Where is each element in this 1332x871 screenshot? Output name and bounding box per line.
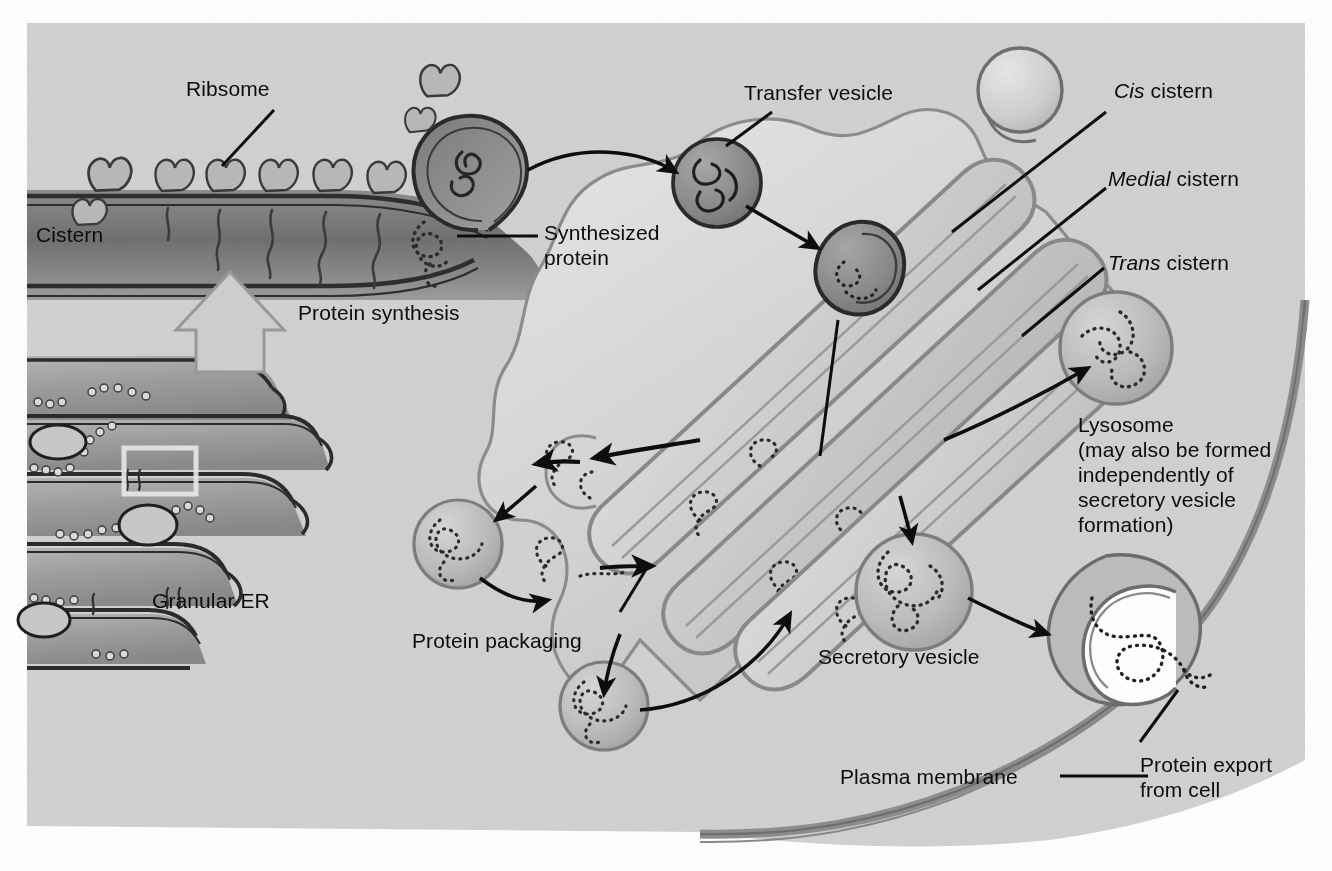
label-trans-cistern: Trans cistern xyxy=(1108,250,1229,275)
label-protein-packaging: Protein packaging xyxy=(412,628,582,653)
label-plasma-membrane: Plasma membrane xyxy=(840,764,1018,789)
label-granular-er: Granular ER xyxy=(152,588,270,613)
secretory-vesicle xyxy=(856,534,972,650)
label-cis-rest: cistern xyxy=(1145,79,1214,102)
label-medial-cistern: Medial cistern xyxy=(1108,166,1239,191)
label-synthesized-protein: Synthesized protein xyxy=(544,220,660,270)
label-cistern: Cistern xyxy=(36,222,103,247)
label-cis-cistern: Cis cistern xyxy=(1114,78,1213,103)
label-cis-emphasis: Cis xyxy=(1114,79,1145,102)
label-ribosome: Ribsome xyxy=(186,76,270,101)
figure-canvas: Ribsome Cistern Synthesized protein Prot… xyxy=(0,0,1332,871)
label-protein-export: Protein export from cell xyxy=(1140,752,1272,802)
label-secretory-vesicle: Secretory vesicle xyxy=(818,644,980,669)
label-lysosome: Lysosome (may also be formed independent… xyxy=(1078,412,1271,537)
packaging-vesicle-lower xyxy=(560,662,648,750)
label-protein-synthesis: Protein synthesis xyxy=(298,300,460,325)
label-transfer-vesicle: Transfer vesicle xyxy=(744,80,893,105)
label-medial-rest: cistern xyxy=(1170,167,1239,190)
label-trans-rest: cistern xyxy=(1161,251,1230,274)
label-medial-emphasis: Medial xyxy=(1108,167,1170,190)
label-trans-emphasis: Trans xyxy=(1108,251,1161,274)
transfer-vesicle xyxy=(673,139,761,227)
lysosome xyxy=(1060,292,1172,404)
packaging-vesicle-upper xyxy=(414,500,502,588)
